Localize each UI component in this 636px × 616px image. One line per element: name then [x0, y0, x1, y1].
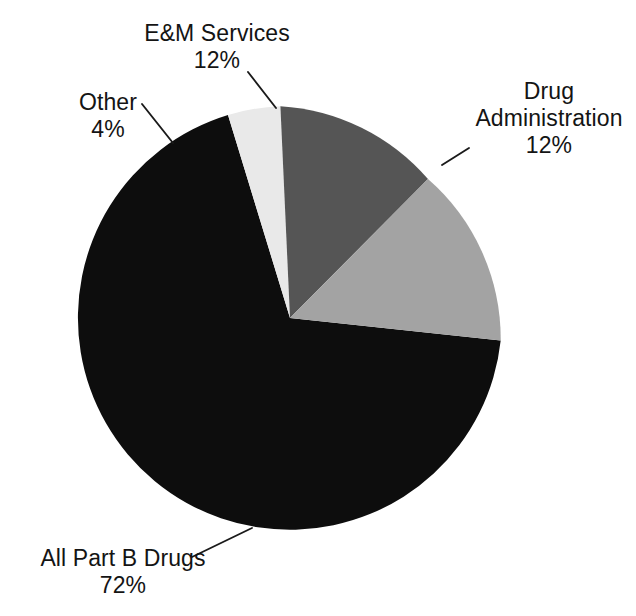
pie-label-all-part-b-drugs: All Part B Drugs 72% [16, 545, 230, 599]
pie-label-other-name: Other [48, 89, 168, 116]
leader-line-drug-administration [442, 148, 469, 165]
pie-label-em-services-name: E&M Services [110, 20, 324, 47]
pie-label-all-part-b-drugs-name: All Part B Drugs [16, 545, 230, 572]
leader-line-em-services [248, 72, 276, 108]
pie-label-all-part-b-drugs-value: 72% [16, 572, 230, 599]
pie-chart-figure: E&M Services 12% Other 4% Drug Administr… [0, 0, 636, 616]
pie-label-em-services-value: 12% [110, 47, 324, 74]
pie-label-other: Other 4% [48, 89, 168, 143]
pie-label-drug-administration-name-line2: Administration [466, 105, 632, 132]
pie-label-other-value: 4% [48, 116, 168, 143]
pie-label-drug-administration-value: 12% [466, 132, 632, 159]
pie-label-drug-administration: Drug Administration 12% [466, 78, 632, 159]
pie-label-drug-administration-name-line1: Drug [466, 78, 632, 105]
pie-label-em-services: E&M Services 12% [110, 20, 324, 74]
